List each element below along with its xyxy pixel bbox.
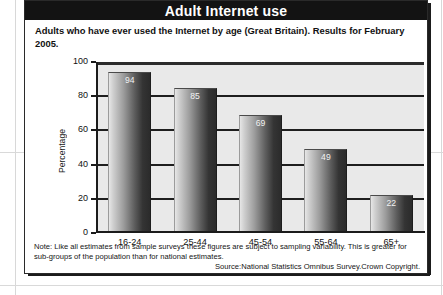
bar-25-44[interactable]: 85 (174, 88, 217, 233)
footnote-note: Note: Like all estimates from sample sur… (34, 242, 420, 263)
scan-rule-bottom (0, 285, 443, 286)
y-axis-tick-label: 80 (58, 90, 88, 100)
y-axis-tick (91, 198, 96, 200)
bar-chart: Percentage 9485694922 020406080100 16-24… (25, 55, 427, 241)
bar-value-label: 85 (175, 91, 216, 101)
y-axis-tick-label: 40 (58, 159, 88, 169)
bar-value-label: 94 (109, 75, 150, 85)
footnote-source: Source:National Statistics Omnibus Surve… (34, 262, 420, 271)
figure-title-banner: Adult Internet use (25, 1, 427, 20)
y-axis-tick-label: 100 (58, 56, 88, 66)
plot-top-border (97, 62, 424, 65)
bar-65+[interactable]: 22 (370, 195, 413, 233)
figure-title: Adult Internet use (165, 3, 288, 19)
card-shadow-right (428, 3, 431, 275)
y-axis-tick (91, 95, 96, 97)
figure-subtitle: Adults who have ever used the Internet b… (35, 25, 419, 50)
scan-rule-left (15, 0, 16, 295)
y-axis-tick (91, 164, 96, 166)
bar-value-label: 69 (240, 118, 281, 128)
y-axis-line (96, 62, 98, 233)
y-axis-tick-label: 0 (58, 227, 88, 237)
y-axis-tick (91, 129, 96, 131)
scan-rule-right (441, 0, 442, 295)
figure-card: Adult Internet use Adults who have ever … (24, 0, 428, 274)
y-axis-tick-label: 20 (58, 193, 88, 203)
y-axis-title: Percentage (57, 111, 71, 191)
y-axis-tick-label: 60 (58, 124, 88, 134)
y-axis-tick (91, 232, 96, 234)
plot-area: 9485694922 (97, 62, 424, 233)
bar-value-label: 22 (371, 198, 412, 208)
bar-55-64[interactable]: 49 (304, 149, 347, 233)
bar-45-54[interactable]: 69 (239, 115, 282, 233)
y-axis-tick (91, 61, 96, 63)
x-axis-line (96, 231, 425, 233)
bar-16-24[interactable]: 94 (108, 72, 151, 233)
bar-value-label: 49 (305, 152, 346, 162)
